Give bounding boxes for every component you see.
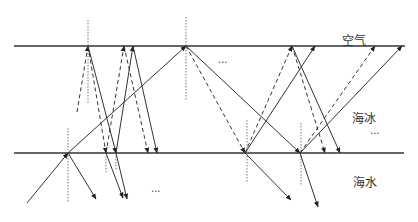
medium-boundaries [14,46,405,153]
label-air: 空气 [342,33,366,48]
dashed-ray-arrow [106,46,124,153]
dashed-ray-arrow [245,46,292,153]
solid-ray-arrow [292,46,340,153]
solid-ray-arrow [133,46,157,153]
solid-ray-arrow [116,46,133,153]
solid-ray-arrow [300,153,318,207]
dashed-ray-arrow [77,46,88,112]
solid-ray-arrow [116,153,127,199]
ellipsis-marker: ... [370,125,380,136]
dashed-ray-arrow [292,46,325,153]
ellipsis-marker: ... [218,54,228,65]
label-sea-water: 海水 [353,175,377,190]
solid-ray-arrow [106,153,123,198]
solid-ray-arrow [245,46,315,153]
label-sea-ice: 海冰 [352,111,376,126]
dashed-ray-arrow [186,46,245,153]
solid-ray-arrow [300,46,402,153]
dashed-ray-arrow [300,46,375,153]
solid-ray-arrow [245,153,291,200]
solid-ray-arrow [88,46,116,153]
solid-ray-arrow [186,46,300,153]
solid-ray-arrow [27,153,68,203]
reflection-refraction-diagram: 空气 海冰 海水 ... ... ... [0,0,418,222]
solid-ray-arrow [68,153,96,199]
ray-paths [27,46,402,207]
dashed-ray-arrow [88,46,106,153]
ellipsis-marker: ... [151,183,161,194]
labels: 空气 海冰 海水 ... ... ... [151,33,380,194]
